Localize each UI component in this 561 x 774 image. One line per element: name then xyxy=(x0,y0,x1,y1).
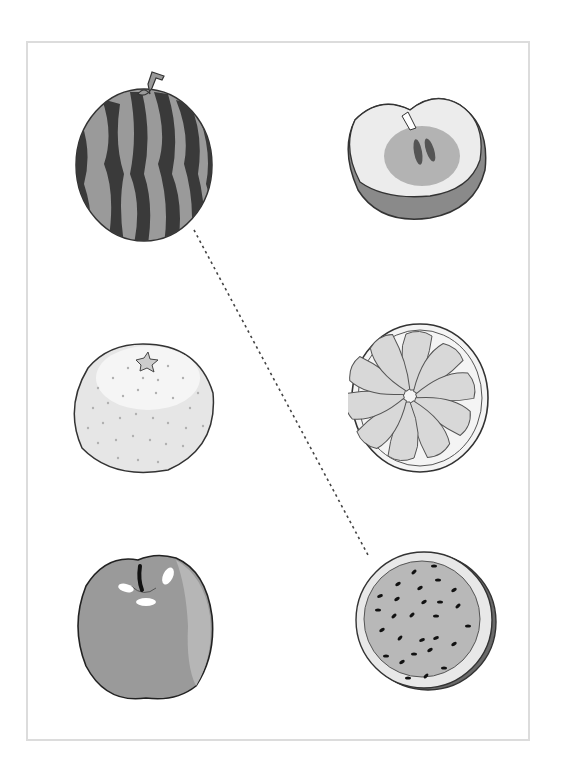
orange-whole-icon xyxy=(68,338,218,478)
orange-half-icon xyxy=(348,320,493,475)
apple-whole-icon xyxy=(76,546,216,706)
watermelon-half[interactable]: Watermelon cut in half xyxy=(352,544,502,694)
watermelon-half-icon xyxy=(352,544,502,694)
apple-half-icon xyxy=(340,90,490,230)
apple-half[interactable]: Apple cut in half xyxy=(340,90,490,230)
watermelon-whole-icon xyxy=(72,64,217,244)
orange-half[interactable]: Orange cut in half xyxy=(348,320,493,475)
orange-whole[interactable]: Whole orange xyxy=(68,338,218,478)
apple-whole[interactable]: Whole apple xyxy=(76,546,216,706)
watermelon-whole[interactable]: Whole watermelon xyxy=(72,64,217,244)
